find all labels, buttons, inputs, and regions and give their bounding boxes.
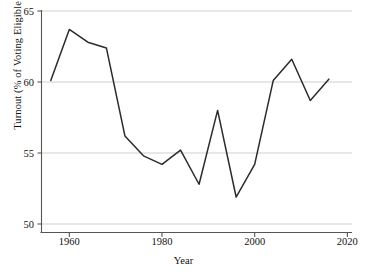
x-tick-label-1960: 1960 [59,236,80,247]
tick-marks [38,11,348,237]
turnout-line-chart: Turnout (% of Voting Eligible Population… [0,0,367,274]
turnout-series-line [51,29,329,197]
x-axis-title: Year [0,255,367,266]
y-tick-label-65: 65 [8,6,34,17]
axis-lines [41,10,353,233]
y-tick-label-50: 50 [8,219,34,230]
y-tick-label-55: 55 [8,148,34,159]
x-tick-label-2020: 2020 [337,236,358,247]
x-tick-label-2000: 2000 [244,236,265,247]
plot-area [0,0,367,274]
x-tick-label-1980: 1980 [151,236,172,247]
y-tick-label-60: 60 [8,77,34,88]
